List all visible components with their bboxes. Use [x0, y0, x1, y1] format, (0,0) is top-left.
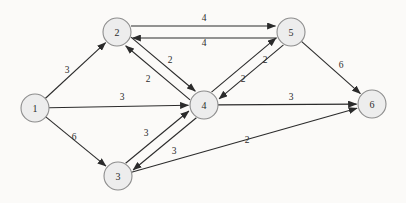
- graph-diagram-canvas: 33644222233362 123456: [0, 0, 406, 203]
- edge-4-to-5: [212, 38, 276, 92]
- node-6[interactable]: 6: [358, 90, 386, 118]
- node-label-2: 2: [115, 27, 120, 38]
- node-label-4: 4: [202, 100, 207, 111]
- node-1[interactable]: 1: [21, 94, 49, 122]
- edge-weight-3-6: 2: [245, 135, 250, 145]
- edge-weight-2-4: 2: [146, 74, 151, 84]
- edge-weight-1-3: 6: [72, 132, 77, 142]
- edge-1-to-2: [45, 43, 105, 99]
- edge-weight-5-2: 4: [202, 38, 207, 48]
- edge-3-to-4: [126, 111, 189, 163]
- edge-weight-3-4: 3: [144, 128, 149, 138]
- node-3[interactable]: 3: [104, 162, 132, 190]
- edge-weight-4-3: 3: [172, 146, 177, 156]
- graph-svg: 33644222233362 123456: [0, 0, 406, 203]
- edge-weight-5-6: 6: [339, 60, 344, 70]
- edge-5-to-6: [301, 41, 360, 93]
- edge-weight-1-4: 3: [120, 92, 125, 102]
- node-label-5: 5: [289, 27, 294, 38]
- node-label-6: 6: [370, 99, 375, 110]
- edge-5-to-4: [219, 45, 283, 99]
- edge-weight-1-2: 3: [65, 65, 70, 75]
- edge-4-to-6: [218, 104, 357, 105]
- node-4[interactable]: 4: [190, 91, 218, 119]
- edge-weight-5-4: 2: [263, 55, 268, 65]
- node-label-1: 1: [33, 103, 38, 114]
- edge-weight-4-2: 2: [168, 55, 173, 65]
- edge-4-to-2: [126, 46, 190, 100]
- edge-4-to-3: [133, 118, 196, 170]
- edge-2-to-4: [131, 37, 195, 91]
- edge-weight-2-5: 4: [202, 13, 207, 23]
- node-label-3: 3: [116, 171, 121, 182]
- edge-weight-4-5: 2: [241, 74, 246, 84]
- edge-weight-4-6: 3: [289, 92, 294, 102]
- node-2[interactable]: 2: [103, 18, 131, 46]
- edge-1-to-4: [49, 105, 189, 107]
- node-5[interactable]: 5: [277, 18, 305, 46]
